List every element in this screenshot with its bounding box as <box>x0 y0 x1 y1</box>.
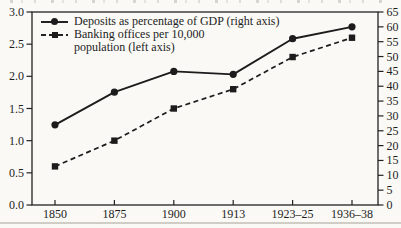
legend-label-banking-line2: population (left axis) <box>74 41 204 54</box>
right-axis-tick-label: 30 <box>387 109 399 123</box>
banking-offices-data-point <box>230 86 236 92</box>
right-axis-tick-label: 25 <box>387 124 399 138</box>
x-axis-tick-label: 1900 <box>162 207 186 221</box>
left-axis-tick-label: 3.0 <box>9 5 24 19</box>
left-axis-tick-label: 0.5 <box>9 166 24 180</box>
x-axis-tick-label: 1850 <box>43 207 67 221</box>
left-axis-tick-label: 0.0 <box>9 198 24 212</box>
right-axis-tick-label: 65 <box>387 5 399 19</box>
left-axis-tick-label: 2.5 <box>9 37 24 51</box>
right-axis-tick-label: 5 <box>387 183 393 197</box>
left-axis-tick-label: 1.0 <box>9 134 24 148</box>
deposits-data-point <box>111 89 118 96</box>
legend-dashed-square-marker-icon <box>41 28 68 41</box>
deposits-data-point <box>230 71 237 78</box>
x-axis-tick-label: 1923–25 <box>272 207 314 221</box>
legend-label-banking-offices: Banking offices per 10,000 population (l… <box>74 28 204 54</box>
right-axis-tick-label: 40 <box>387 79 399 93</box>
deposits-data-point <box>289 35 296 42</box>
right-axis-tick-label: 10 <box>387 168 399 182</box>
deposits-data-point <box>170 68 177 75</box>
left-axis-tick-label: 1.5 <box>9 102 24 116</box>
deposits-data-point <box>51 121 58 128</box>
line-chart-figure: 3.02.52.01.51.00.50.06560555045403530252… <box>0 0 401 228</box>
right-axis-tick-label: 15 <box>387 153 399 167</box>
chart-legend: Deposits as percentage of GDP (right axi… <box>41 15 280 54</box>
legend-entry-banking-offices: Banking offices per 10,000 population (l… <box>41 28 280 54</box>
page-rule-divider <box>0 222 401 224</box>
deposits-data-point <box>348 23 355 30</box>
x-axis-tick-label: 1875 <box>102 207 126 221</box>
banking-offices-data-point <box>171 105 177 111</box>
banking-offices-data-point <box>111 137 117 143</box>
right-axis-tick-label: 60 <box>387 20 399 34</box>
x-axis-tick-label: 1936–38 <box>331 207 373 221</box>
right-axis-tick-label: 55 <box>387 35 399 49</box>
legend-solid-circle-marker-icon <box>41 15 68 28</box>
right-axis-tick-label: 45 <box>387 64 399 78</box>
right-axis-tick-label: 35 <box>387 94 399 108</box>
x-axis-tick-label: 1913 <box>221 207 245 221</box>
banking-offices-data-point <box>289 54 295 60</box>
left-axis-tick-label: 2.0 <box>9 69 24 83</box>
right-axis-tick-label: 0 <box>387 198 393 212</box>
right-axis-tick-label: 50 <box>387 50 399 64</box>
right-axis-tick-label: 20 <box>387 139 399 153</box>
banking-offices-data-point <box>52 163 58 169</box>
banking-offices-line <box>55 38 352 167</box>
banking-offices-data-point <box>349 35 355 41</box>
